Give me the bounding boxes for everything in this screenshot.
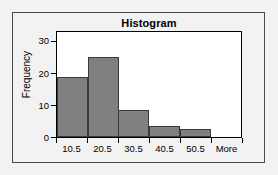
y-tick-label-30: 30 — [27, 36, 49, 46]
x-tick-label-more: More — [211, 144, 242, 154]
chart-object-frame[interactable]: Histogram Frequency 30 20 10 0 — [12, 12, 265, 163]
chart-title: Histogram — [56, 17, 242, 29]
x-tick-mark-3 — [149, 138, 150, 143]
x-tick-mark-4 — [180, 138, 181, 143]
histogram-bar-10-5[interactable] — [57, 77, 88, 137]
x-tick-mark-6 — [242, 138, 243, 143]
y-tick-label-20: 20 — [27, 69, 49, 79]
x-tick-label-40-5: 40.5 — [149, 144, 180, 154]
bars-layer — [57, 32, 241, 137]
x-tick-mark-1 — [87, 138, 88, 143]
histogram-bar-40-5[interactable] — [149, 126, 180, 137]
x-tick-label-30-5: 30.5 — [118, 144, 149, 154]
histogram-bar-20-5[interactable] — [88, 57, 119, 137]
x-tick-mark-0 — [56, 138, 57, 143]
x-tick-label-10-5: 10.5 — [56, 144, 87, 154]
x-tick-mark-2 — [118, 138, 119, 143]
x-tick-label-50-5: 50.5 — [180, 144, 211, 154]
x-tick-mark-5 — [211, 138, 212, 143]
screenshot-root: Histogram Frequency 30 20 10 0 — [0, 0, 278, 175]
plot-area — [56, 31, 242, 138]
y-tick-label-10: 10 — [27, 101, 49, 111]
x-tick-label-20-5: 20.5 — [87, 144, 118, 154]
histogram-bar-30-5[interactable] — [118, 110, 149, 137]
y-axis-labels: 30 20 10 0 — [25, 13, 49, 164]
y-tick-label-0: 0 — [27, 133, 49, 143]
histogram-bar-50-5[interactable] — [180, 129, 211, 137]
